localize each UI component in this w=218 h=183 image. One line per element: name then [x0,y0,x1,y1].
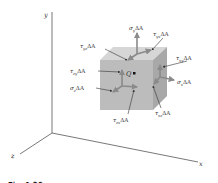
label-tau-zy: τzyΔA [70,68,86,76]
y-axis-label: y [43,11,48,19]
stress-element-diagram: y x z Q σyΔA τy [0,0,218,183]
figure-caption: Fig. 1.36 [8,181,43,183]
label-sigma-y: σyΔA [129,25,144,33]
label-sigma-x: σxΔA [177,79,192,87]
label-tau-xy: τxyΔA [176,55,192,63]
cube-front-face [100,60,153,110]
z-axis [20,133,52,154]
label-tau-zx: τzxΔA [113,117,129,125]
label-tau-yz: τyzΔA [80,43,96,51]
x-axis-label: x [199,160,203,168]
z-axis-label: z [10,152,15,160]
label-sigma-z: σzΔA [70,85,85,93]
label-tau-xz: τxzΔA [155,110,171,118]
point-q-label: Q [126,70,132,78]
point-q-dot [133,72,136,75]
x-axis [52,133,198,162]
label-tau-yx: τyxΔA [153,31,169,39]
